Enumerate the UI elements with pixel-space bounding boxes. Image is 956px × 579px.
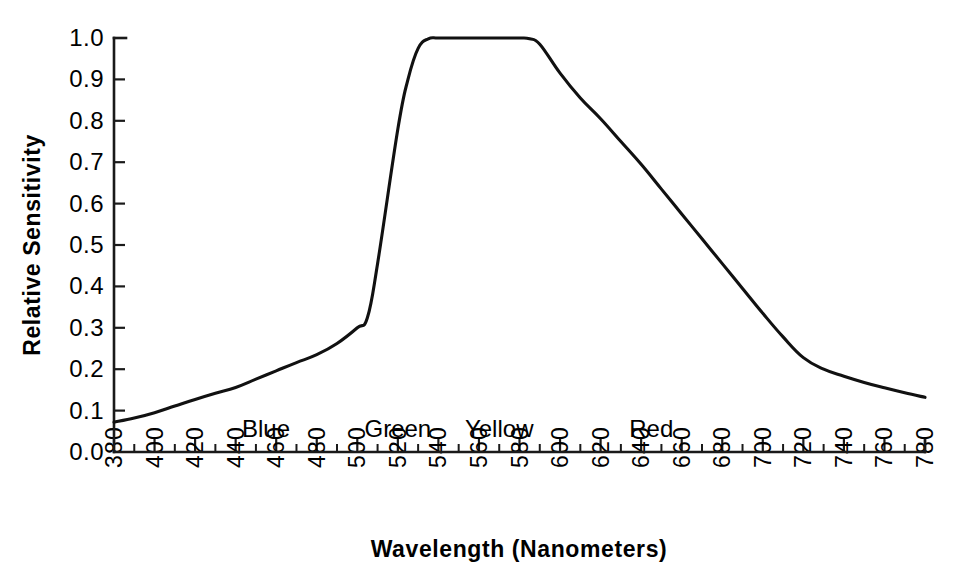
y-tick-label: 0.5 [69,231,104,258]
y-tick-label: 0.3 [69,314,104,341]
y-tick-label: 0.9 [69,65,104,92]
band-label-yellow: Yellow [465,415,534,442]
x-tick-label: 760 [871,426,897,468]
band-label-blue: Blue [242,415,290,442]
x-tick-label: 620 [588,426,614,468]
y-tick-label: 0.2 [69,355,104,382]
y-tick-label: 0.8 [69,107,104,134]
y-axis-tick-marks [114,79,125,410]
x-tick-label: 680 [709,426,735,468]
y-tick-label: 0.1 [69,397,104,424]
y-tick-label: 0.0 [69,438,104,465]
y-tick-label: 0.4 [69,272,104,299]
y-tick-label: 0.6 [69,190,104,217]
x-tick-label: 400 [142,426,168,468]
chart-page: 1.00.90.80.70.60.50.40.30.20.10.0 380400… [0,0,956,579]
x-axis-title: Wavelength (Nanometers) [371,536,668,562]
y-axis-title: Relative Sensitivity [19,134,45,356]
x-tick-label: 480 [304,426,330,468]
x-tick-label: 720 [790,426,816,468]
sensitivity-curve [114,38,925,423]
x-tick-label: 700 [750,426,776,468]
y-tick-label: 0.7 [69,148,104,175]
x-tick-label: 420 [182,426,208,468]
x-tick-label: 740 [831,426,857,468]
y-axis-tick-labels: 1.00.90.80.70.60.50.40.30.20.10.0 [69,24,104,465]
band-label-green: Green [364,415,431,442]
x-tick-label: 600 [547,426,573,468]
spectral-sensitivity-chart: 1.00.90.80.70.60.50.40.30.20.10.0 380400… [0,0,956,579]
band-label-red: Red [629,415,673,442]
y-tick-label: 1.0 [69,24,104,51]
